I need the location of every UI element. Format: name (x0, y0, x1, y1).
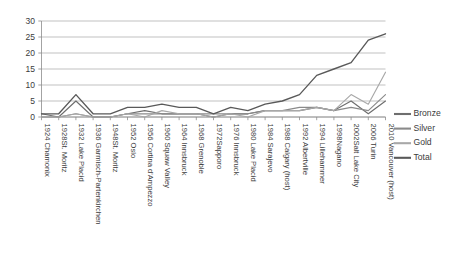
x-axis-tick-label: 1976 Innsbruck (232, 124, 241, 176)
x-axis-tick-label: 1964 Innsbruck (180, 124, 189, 176)
x-axis-tick-label: 1968 Grenoble (197, 124, 206, 174)
series-line-bronze (42, 101, 386, 117)
x-axis-tick-label: 1948St. Moritz (111, 124, 120, 173)
x-axis-tick-label: 1972Sapporo (215, 124, 224, 170)
legend-item-silver[interactable]: Silver (394, 123, 435, 133)
y-axis-ticks-group (38, 21, 41, 117)
legend-label: Total (414, 152, 432, 162)
legend-label: Gold (414, 137, 432, 147)
chart-canvas: 051015202530 1924 Chamonix1928St. Moritz… (0, 0, 466, 272)
x-axis-tick-label: 2002Salt Lake City (352, 124, 361, 188)
x-axis-tick-label: 1994 Lillehammer (318, 124, 327, 185)
line-chart: 051015202530 1924 Chamonix1928St. Moritz… (0, 0, 466, 272)
legend: BronzeSilverGoldTotal (394, 108, 441, 162)
x-axis-tick-label: 1924 Chamonix (43, 124, 52, 177)
x-axis-tick-label: 1956 Cortina d'Ampezzo (146, 124, 155, 207)
y-axis-tick-label: 25 (26, 32, 36, 42)
series-line-gold (42, 72, 386, 117)
series-group (42, 34, 386, 117)
legend-label: Silver (414, 123, 436, 133)
x-axis-tick-label: 1932 Lake Placid (77, 124, 86, 182)
y-axis-labels-group: 051015202530 (26, 16, 36, 122)
x-axis-tick-label: 1952 Oslo (129, 124, 138, 159)
y-axis-tick-label: 5 (30, 96, 35, 106)
x-axis-tick-label: 2010 Vancouver (host) (387, 124, 396, 201)
legend-item-gold[interactable]: Gold (394, 137, 432, 147)
legend-item-bronze[interactable]: Bronze (394, 108, 441, 118)
x-axis-tick-label: 1992 Albertville (301, 124, 310, 176)
x-axis-tick-label: 1928St. Moritz (60, 124, 69, 173)
x-axis-tick-label: 2006 Turin (369, 124, 378, 160)
y-axis-tick-label: 15 (26, 64, 36, 74)
x-axis-tick-label: 1936 Garmisch-Partenkirchen (94, 124, 103, 225)
x-axis-tick-label: 1980 Lake Placid (249, 124, 258, 182)
series-line-total (42, 34, 386, 114)
x-axis-labels-group: 1924 Chamonix1928St. Moritz1932 Lake Pla… (43, 124, 396, 225)
x-axis-tick-label: 1988 Calgary (host) (283, 124, 292, 191)
legend-item-total[interactable]: Total (394, 152, 432, 162)
y-axis-tick-label: 30 (26, 16, 36, 26)
y-axis-tick-label: 0 (30, 112, 35, 122)
y-axis-tick-label: 10 (26, 80, 36, 90)
legend-label: Bronze (414, 108, 441, 118)
x-axis-tick-label: 1960 Squaw Valley (163, 124, 172, 189)
y-axis-tick-label: 20 (26, 48, 36, 58)
x-axis-tick-label: 1998Nagano (335, 124, 344, 168)
x-axis-tick-label: 1984 Sarajevo (266, 124, 275, 173)
